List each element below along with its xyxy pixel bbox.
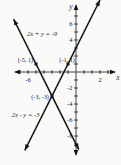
linear-system-graph-figure: -6264-2-4-6-8xy2x + y = -92x - y = -3(-5… [0,0,121,165]
equation-line-1-arrow-start [12,18,19,25]
x-axis-label: x [115,73,120,82]
x-tick-label: 2 [98,76,101,83]
y-tick-label: -2 [67,84,72,91]
y-axis-arrow-bottom [74,150,79,156]
y-axis-label: y [68,2,73,11]
equation-line-2 [25,0,100,150]
y-tick-label: -6 [67,116,73,123]
equation-label-1: 2x + y = -9 [27,30,58,37]
point-label-3: (-3, -3) [31,93,49,101]
y-tick-label: -4 [67,100,73,107]
point-marker-1 [35,63,38,66]
equation-line-2-arrow-start [23,144,30,151]
linear-system-graph: -6264-2-4-6-8xy2x + y = -92x - y = -3(-5… [0,0,121,165]
x-axis-arrow-left [14,70,20,75]
y-axis-arrow-top [74,4,79,10]
y-tick-label: 4 [69,36,73,43]
equation-label-2: 2x - y = -3 [12,111,41,118]
y-tick-label: 6 [69,20,73,27]
x-axis-arrow-right [110,70,116,75]
equation-line-2-arrow-end [95,0,102,6]
x-tick-label: -6 [25,76,31,83]
point-label-2: (-1, 1) [59,56,74,64]
point-label-1: (-5, 1) [18,56,33,64]
point-marker-3 [51,95,54,98]
